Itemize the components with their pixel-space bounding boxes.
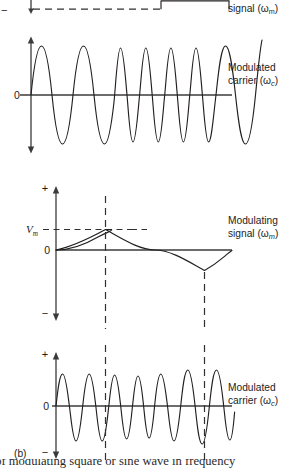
zero-label-modulating-sine: 0 <box>44 244 50 256</box>
label-modulated-carrier-sine-line2: carrier (ωc) <box>228 395 278 408</box>
minus-sign-carrier-sine: − <box>42 446 48 458</box>
vm-amplitude-label: Vm <box>26 223 38 238</box>
label-modulating-signal-group: Modulating signal (ωm) <box>228 215 278 241</box>
waveform-modulated-carrier-sine <box>56 370 235 444</box>
label-modulated-carrier-sine-line1: Modulated <box>228 382 276 393</box>
axis-arrow-down-modulating-sine <box>53 314 59 322</box>
label-modulating-signal-line1: Modulating <box>228 215 278 226</box>
axis-arrow-down-top <box>28 9 34 14</box>
label-modulating-signal-line2: signal (ωm) <box>228 228 278 241</box>
axis-arrow-up-modulating-sine <box>53 186 59 194</box>
fm-figure: − signal (ωm) 0 Modula <box>0 0 288 473</box>
label-modulated-carrier-square-line1: Modulated <box>228 62 276 73</box>
panel-modulated-carrier-sine: + − 0 (b) <box>14 345 235 463</box>
label-modulated-carrier-square-line2: carrier (ωc) <box>228 75 278 88</box>
zero-label-carrier-sine: 0 <box>43 400 49 412</box>
label-square-modulating-signal: signal (ωm) <box>228 3 278 16</box>
label-modulated-carrier-sine-group: Modulated carrier (ωc) <box>228 382 278 408</box>
plus-sign-modulating-sine: + <box>42 182 48 194</box>
minus-sign-modulating-sine: − <box>42 307 48 319</box>
plus-sign-carrier-sine: + <box>42 348 48 360</box>
panel-square-modulating-tail: − <box>1 0 229 16</box>
waveform-modulating-sine <box>56 230 112 251</box>
axis-arrow-up-carrier-sine <box>53 352 59 360</box>
square-high-level <box>161 1 229 10</box>
axis-arrow-down-carrier-square <box>28 147 34 154</box>
panel-modulating-sine: + − 0 Vm <box>26 182 232 329</box>
axis-arrow-down-carrier-sine <box>53 452 59 460</box>
axis-arrow-up-carrier-square <box>28 37 34 44</box>
figure-canvas: − signal (ωm) 0 Modula <box>0 0 288 473</box>
label-modulated-carrier-square-group: Modulated carrier (ωc) <box>228 62 278 88</box>
panel-modulated-carrier-square: 0 <box>14 37 262 154</box>
panel-tag-b: (b) <box>14 448 26 459</box>
zero-label-carrier-square: 0 <box>14 89 20 101</box>
waveform-modulated-carrier-square <box>31 40 262 144</box>
minus-sign-top: − <box>1 4 7 16</box>
